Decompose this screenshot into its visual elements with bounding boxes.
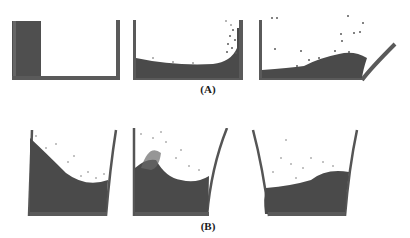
panel-a1-dam-break-initial: [12, 18, 124, 82]
panel-a3-dam-break-ramp: [259, 8, 399, 82]
row-a-label: (A): [200, 83, 215, 95]
panel-b3-sloshing-tank: [251, 128, 361, 218]
panel-b1-sloshing-tank: [26, 128, 122, 218]
panel-b2-sloshing-tank: [131, 128, 231, 218]
row-b-label: (B): [201, 220, 216, 232]
panel-a2-dam-break-impact: [133, 18, 249, 82]
